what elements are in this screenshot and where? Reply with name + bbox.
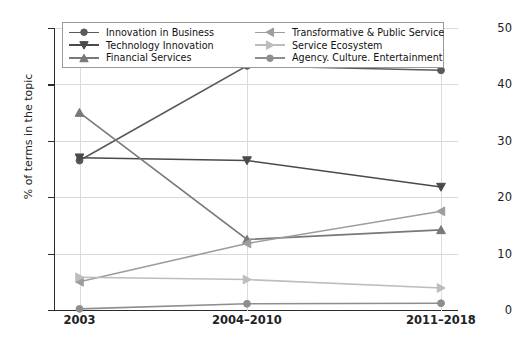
legend-label: Technology Innovation — [106, 40, 214, 51]
triangle-up-marker — [69, 52, 99, 64]
data-point-marker — [438, 300, 445, 307]
triangle-down-marker — [69, 39, 99, 51]
data-point-marker — [244, 300, 251, 307]
series-4 — [75, 207, 444, 286]
series-6 — [76, 300, 444, 313]
legend-column-right: Transformative & Public ServiceService E… — [255, 26, 437, 64]
series-3 — [75, 108, 445, 243]
legend-entry[interactable]: Transformative & Public Service — [255, 26, 437, 39]
legend-label: Transformative & Public Service — [292, 27, 444, 38]
legend-entry[interactable]: Technology Innovation — [69, 39, 255, 52]
data-point-marker — [75, 108, 84, 116]
triangle-left-marker — [255, 26, 285, 38]
series-line — [80, 211, 442, 281]
circle-marker — [69, 26, 99, 38]
circle-marker — [255, 52, 285, 64]
series-line — [80, 303, 442, 309]
series-5 — [76, 273, 445, 293]
legend-label: Innovation in Business — [106, 27, 214, 38]
legend-label: Agency. Culture. Entertainment — [292, 52, 443, 63]
data-point-marker — [437, 284, 445, 293]
legend-column-left: Innovation in BusinessTechnology Innovat… — [69, 26, 255, 64]
legend-label: Service Ecosystem — [292, 40, 382, 51]
series-2 — [75, 154, 445, 191]
legend-entry[interactable]: Innovation in Business — [69, 26, 255, 39]
chart-legend: Innovation in BusinessTechnology Innovat… — [62, 22, 444, 68]
series-line — [80, 158, 442, 187]
legend-entry[interactable]: Agency. Culture. Entertainment — [255, 51, 437, 64]
legend-entry[interactable]: Financial Services — [69, 51, 255, 64]
data-point-marker — [76, 305, 83, 312]
triangle-right-marker — [255, 39, 285, 51]
legend-label: Financial Services — [106, 52, 192, 63]
series-1 — [76, 62, 444, 164]
legend-entry[interactable]: Service Ecosystem — [255, 39, 437, 52]
line-chart: % of terms in the topic 01020304050 2003… — [0, 0, 512, 347]
data-point-marker — [437, 207, 445, 216]
series-line — [80, 66, 442, 161]
data-point-marker — [243, 275, 251, 284]
series-line — [80, 277, 442, 288]
